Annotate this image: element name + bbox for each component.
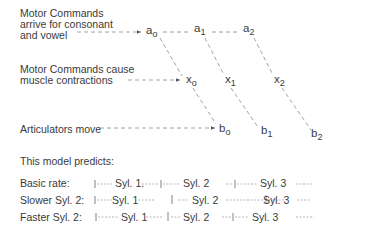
node-b1: b1 xyxy=(261,124,272,140)
row-basic-syl3: Syl. 3 xyxy=(260,177,286,189)
row-faster-syl3: Syl. 3 xyxy=(252,211,278,223)
row-basic-syl1: Syl. 1. xyxy=(115,177,144,189)
row-faster-syl2: Syl. 2 xyxy=(183,211,209,223)
node-x0: xo xyxy=(186,73,197,89)
node-b0: bo xyxy=(219,122,230,138)
row-label-slower: Slower Syl. 2: xyxy=(20,194,84,206)
row-label-basic: Basic rate: xyxy=(20,177,70,189)
row-label-faster: Faster Syl. 2: xyxy=(20,211,82,223)
label-articulators-move: Articulators move xyxy=(20,124,101,135)
node-a1: a1 xyxy=(194,22,205,38)
node-b2: b2 xyxy=(311,127,322,143)
row-slower-syl1: Syl. 1 xyxy=(112,194,138,206)
row-faster-syl1: Syl. 1 xyxy=(121,211,147,223)
label-model-predicts: This model predicts: xyxy=(20,156,114,167)
label-commands-arrive-line3: and vowel xyxy=(20,30,67,41)
row-slower-syl2: Syl. 2 xyxy=(192,194,218,206)
row-basic-syl2: Syl. 2 xyxy=(183,177,209,189)
row-slower-syl3: Syl. 3 xyxy=(263,194,289,206)
node-a2: a2 xyxy=(243,22,254,38)
node-x1: x1 xyxy=(225,73,236,89)
node-a0: ao xyxy=(146,24,157,40)
node-x2: x2 xyxy=(274,73,285,89)
label-commands-cause-line2: muscle contractions xyxy=(20,75,113,86)
